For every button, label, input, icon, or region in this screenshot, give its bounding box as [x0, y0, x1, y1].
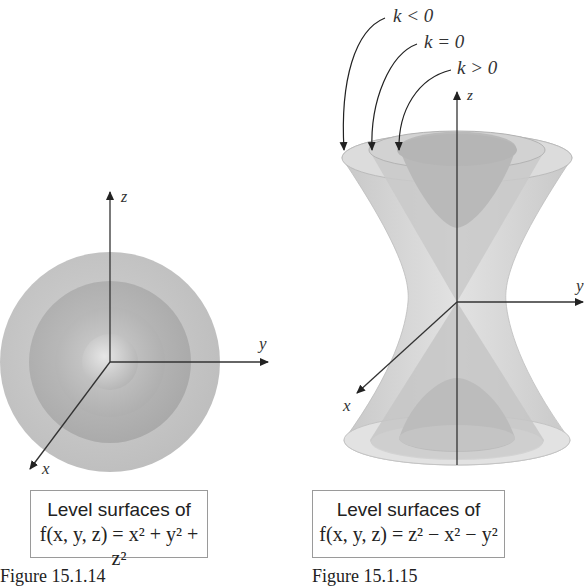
caption-formula: f(x, y, z) = x² + y² + z² — [31, 522, 207, 570]
annotation-k-zero: k = 0 — [424, 31, 465, 52]
annotation-arrow-k-negative — [343, 18, 385, 150]
caption-box-hyperboloid: Level surfaces of f(x, y, z) = z² − x² −… — [312, 490, 505, 558]
caption-formula: f(x, y, z) = z² − x² − y² — [313, 522, 504, 546]
caption-title: Level surfaces of — [31, 498, 207, 522]
caption-box-sphere: Level surfaces of f(x, y, z) = x² + y² +… — [30, 490, 208, 558]
caption-title: Level surfaces of — [313, 498, 504, 522]
figure-label: Figure 15.1.15 — [312, 566, 418, 587]
figure-label: Figure 15.1.14 — [0, 566, 106, 587]
y-axis-label: y — [574, 276, 584, 295]
annotation-k-positive: k > 0 — [457, 57, 498, 78]
x-axis-label: x — [342, 396, 351, 415]
z-axis-label: z — [466, 87, 473, 103]
annotation-k-negative: k < 0 — [393, 5, 434, 26]
hyperboloid-level-surfaces-diagram: z y x k < 0 k = 0 k > 0 — [0, 0, 584, 480]
